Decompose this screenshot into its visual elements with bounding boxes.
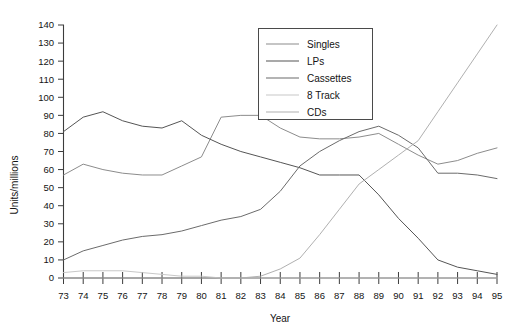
- x-tick-label: 93: [452, 290, 463, 301]
- y-tick-label: 120: [38, 56, 54, 67]
- x-tick-label: 84: [275, 290, 286, 301]
- y-tick-label: 70: [43, 146, 54, 157]
- y-tick-label: 110: [39, 74, 54, 85]
- y-tick-label: 80: [43, 128, 54, 139]
- y-tick-label: 140: [38, 19, 54, 30]
- x-tick-label: 90: [393, 290, 404, 301]
- chart-svg: 0102030405060708090100110120130140 73747…: [0, 0, 513, 336]
- x-tick-label: 85: [295, 290, 306, 301]
- y-axis-ticks: 0102030405060708090100110120130140: [38, 19, 64, 283]
- x-axis-ticks: 7374757677787980818283848586878889909192…: [58, 272, 502, 301]
- chart-legend: SinglesLPsCassettes8 TrackCDs: [259, 29, 373, 120]
- x-tick-label: 74: [78, 290, 89, 301]
- y-tick-label: 30: [43, 218, 54, 229]
- x-tick-label: 94: [472, 290, 483, 301]
- legend-label-singles: Singles: [307, 39, 340, 50]
- x-tick-label: 95: [492, 290, 503, 301]
- x-tick-label: 75: [98, 290, 109, 301]
- y-tick-label: 100: [38, 92, 54, 103]
- y-tick-label: 50: [43, 182, 54, 193]
- y-tick-label: 60: [43, 164, 54, 175]
- line-chart-figure: 0102030405060708090100110120130140 73747…: [0, 0, 513, 336]
- x-tick-label: 92: [433, 290, 444, 301]
- y-tick-label: 20: [43, 236, 54, 247]
- x-tick-label: 86: [314, 290, 325, 301]
- x-tick-label: 83: [255, 290, 266, 301]
- x-tick-label: 82: [236, 290, 247, 301]
- x-tick-label: 80: [196, 290, 207, 301]
- y-tick-label: 0: [49, 272, 54, 283]
- series-line-cassettes: [64, 126, 498, 260]
- y-tick-label: 40: [43, 200, 54, 211]
- x-tick-label: 88: [354, 290, 365, 301]
- x-tick-label: 73: [58, 290, 69, 301]
- y-tick-label: 90: [43, 110, 54, 121]
- x-axis-title: Year: [270, 313, 291, 324]
- x-tick-label: 77: [137, 290, 148, 301]
- y-tick-label: 10: [43, 254, 54, 265]
- y-axis-title: Units/millions: [9, 156, 20, 215]
- legend-label-8-track: 8 Track: [307, 90, 341, 101]
- legend-label-cds: CDs: [307, 107, 326, 118]
- x-tick-label: 78: [157, 290, 168, 301]
- legend-label-lps: LPs: [307, 56, 324, 67]
- series-line-lps: [64, 112, 498, 275]
- x-tick-label: 87: [334, 290, 345, 301]
- y-tick-label: 130: [38, 37, 54, 48]
- x-tick-label: 89: [373, 290, 384, 301]
- legend-label-cassettes: Cassettes: [307, 73, 351, 84]
- x-tick-label: 79: [176, 290, 187, 301]
- x-tick-label: 91: [413, 290, 424, 301]
- x-tick-label: 76: [117, 290, 128, 301]
- x-tick-label: 81: [216, 290, 227, 301]
